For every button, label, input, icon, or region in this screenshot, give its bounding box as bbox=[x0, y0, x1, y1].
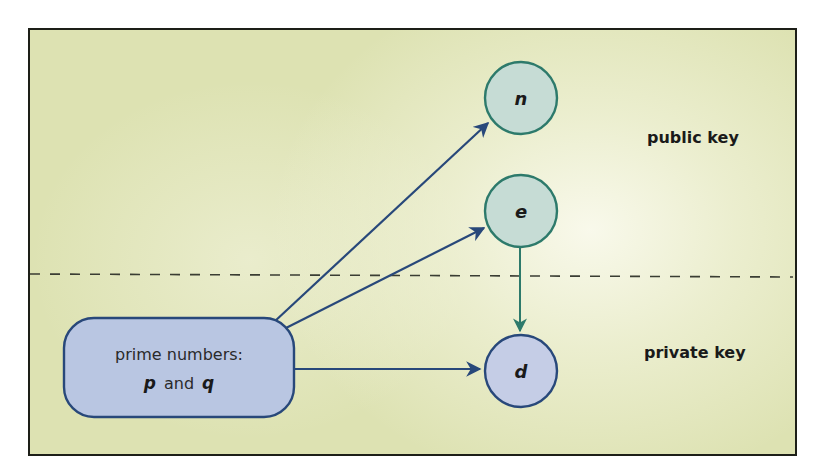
node-e: e bbox=[485, 175, 557, 247]
prime-numbers-label: prime numbers: bbox=[115, 345, 243, 364]
node-n-label: n bbox=[515, 88, 528, 109]
p-and-q-label: p and q bbox=[143, 373, 214, 393]
prime-numbers-box: prime numbers: p and q bbox=[64, 318, 294, 417]
q-label: q bbox=[202, 373, 214, 393]
diagram-svg: prime numbers: p and q n e d public key … bbox=[0, 0, 820, 476]
node-n: n bbox=[485, 62, 557, 134]
diagram-canvas: prime numbers: p and q n e d public key … bbox=[0, 0, 820, 476]
node-d-label: d bbox=[515, 361, 529, 382]
arrow-primes-to-n bbox=[274, 123, 488, 322]
private-key-label: private key bbox=[644, 343, 746, 362]
public-private-divider bbox=[30, 274, 793, 277]
node-e-label: e bbox=[515, 201, 527, 222]
arrow-primes-to-e bbox=[284, 228, 484, 329]
public-key-label: public key bbox=[647, 128, 739, 147]
p-label: p bbox=[143, 373, 156, 393]
and-label: and bbox=[164, 374, 194, 393]
node-d: d bbox=[485, 335, 557, 407]
